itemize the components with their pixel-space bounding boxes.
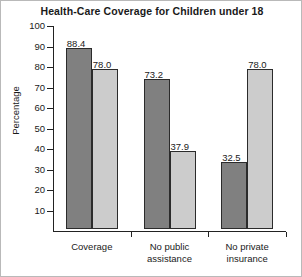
bar-value-label: 37.9 bbox=[171, 142, 190, 152]
y-axis-tick-label: 100 bbox=[1, 21, 45, 31]
x-axis-category-label: No private insurance bbox=[208, 241, 286, 264]
y-axis-tick bbox=[47, 108, 53, 109]
y-axis-tick-label: 70 bbox=[1, 83, 45, 93]
bar-value-label: 78.0 bbox=[248, 60, 267, 70]
y-axis-tick-label: 80 bbox=[1, 62, 45, 72]
y-axis-tick bbox=[47, 211, 53, 212]
bar-value-label: 88.4 bbox=[67, 39, 86, 49]
y-axis-tick-label: 90 bbox=[1, 42, 45, 52]
y-axis-tick bbox=[47, 88, 53, 89]
y-axis-tick-label: 40 bbox=[1, 144, 45, 154]
x-axis-line bbox=[53, 231, 286, 232]
bar-value-label: 78.0 bbox=[93, 60, 112, 70]
bar-light-1 bbox=[92, 69, 118, 229]
x-axis-tick-end bbox=[286, 232, 287, 237]
y-axis-tick bbox=[47, 67, 53, 68]
bar-chart-figure: Health-Care Coverage for Children under … bbox=[0, 0, 302, 277]
y-axis-tick-label: 60 bbox=[1, 103, 45, 113]
y-axis-tick-label: 50 bbox=[1, 124, 45, 134]
x-axis-category-label: No public assistance bbox=[131, 241, 209, 264]
y-axis-tick-label: 20 bbox=[1, 185, 45, 195]
bar-dark-1 bbox=[66, 48, 92, 229]
y-axis-tick bbox=[47, 149, 53, 150]
y-axis-tick bbox=[47, 170, 53, 171]
y-axis-tick bbox=[47, 47, 53, 48]
bar-dark-3 bbox=[221, 162, 247, 229]
y-axis-tick bbox=[47, 26, 53, 27]
bar-value-label: 73.2 bbox=[145, 70, 164, 80]
y-axis-line bbox=[53, 26, 54, 232]
y-axis-tick bbox=[47, 129, 53, 130]
x-axis-tick bbox=[208, 232, 209, 237]
bar-light-2 bbox=[170, 151, 196, 229]
y-axis-tick-label: 30 bbox=[1, 165, 45, 175]
bar-light-3 bbox=[247, 69, 273, 229]
x-axis-category-label: Coverage bbox=[53, 241, 131, 253]
bar-dark-2 bbox=[144, 79, 170, 229]
y-axis-tick bbox=[47, 190, 53, 191]
chart-title: Health-Care Coverage for Children under … bbox=[1, 5, 302, 17]
y-axis-tick-label: 10 bbox=[1, 206, 45, 216]
bar-value-label: 32.5 bbox=[222, 153, 241, 163]
x-axis-tick bbox=[131, 232, 132, 237]
